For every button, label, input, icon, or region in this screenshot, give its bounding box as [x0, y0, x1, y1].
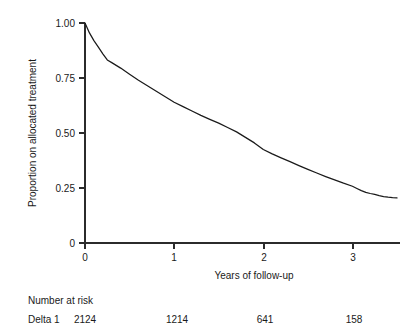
y-tick-label-5: 0: [69, 238, 75, 249]
y-tick-label-2: 0.75: [56, 73, 76, 84]
x-tick-label-2: 2: [261, 252, 267, 263]
survival-curve-figure: 1.00 0.75 0.50 0.25 0 0 1 2 3 Years of f…: [0, 0, 417, 336]
kaplan-meier-chart: 1.00 0.75 0.50 0.25 0 0 1 2 3 Years of f…: [0, 0, 417, 336]
y-axis-title: Proportion on allocated treatment: [27, 59, 38, 207]
x-tick-label-1: 1: [171, 252, 177, 263]
risk-row-label-delta-1: Delta 1: [28, 314, 60, 325]
y-tick-label-4: 0.25: [56, 183, 76, 194]
y-tick-label-1: 1.00: [56, 18, 76, 29]
risk-count-year-2: 641: [257, 314, 274, 325]
risk-count-year-1: 1214: [166, 314, 189, 325]
survival-curve-delta-1: [85, 23, 397, 198]
x-tick-label-0: 0: [82, 252, 88, 263]
risk-count-year-0: 2124: [74, 314, 97, 325]
risk-count-year-3: 158: [346, 314, 363, 325]
y-tick-label-3: 0.50: [56, 128, 76, 139]
x-axis-title: Years of follow-up: [214, 270, 294, 281]
risk-table-heading: Number at risk: [28, 295, 94, 306]
x-tick-label-3: 3: [350, 252, 356, 263]
